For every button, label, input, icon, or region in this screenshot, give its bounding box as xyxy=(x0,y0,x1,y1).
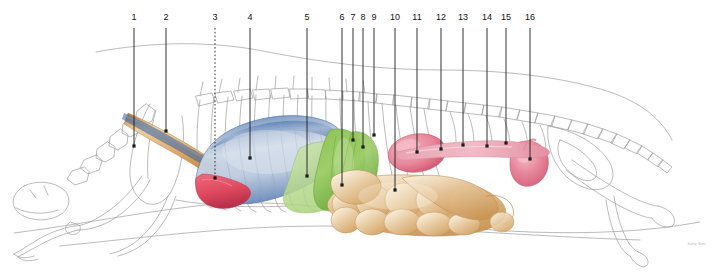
bladder-organ xyxy=(490,212,514,232)
label-number-15: 15 xyxy=(501,12,511,22)
leader-tip-12 xyxy=(439,147,442,150)
leader-tip-9 xyxy=(372,133,375,136)
leader-tip-10 xyxy=(393,188,396,191)
label-number-8: 8 xyxy=(360,12,365,22)
label-number-7: 7 xyxy=(350,12,355,22)
anatomy-figure: 12345678910111213141516 Kathy West xyxy=(0,0,727,274)
label-number-12: 12 xyxy=(436,12,446,22)
label-number-6: 6 xyxy=(339,12,344,22)
leader-tip-6 xyxy=(340,183,343,186)
leader-tip-14 xyxy=(485,144,488,147)
leader-tip-7 xyxy=(351,138,354,141)
intestines-organ xyxy=(327,170,513,236)
label-number-9: 9 xyxy=(371,12,376,22)
label-number-11: 11 xyxy=(412,12,421,22)
artist-signature: Kathy West xyxy=(688,242,706,246)
leader-tip-3 xyxy=(213,176,216,179)
label-number-4: 4 xyxy=(247,12,252,22)
leader-tip-4 xyxy=(248,156,251,159)
label-number-14: 14 xyxy=(482,12,492,22)
label-number-2: 2 xyxy=(163,12,168,22)
leader-tip-1 xyxy=(132,144,135,147)
label-number-5: 5 xyxy=(304,12,309,22)
label-number-10: 10 xyxy=(390,12,400,22)
leader-tip-8 xyxy=(361,145,364,148)
leader-tip-5 xyxy=(305,174,308,177)
label-number-16: 16 xyxy=(525,12,535,22)
anatomy-illustration xyxy=(0,0,727,274)
label-number-3: 3 xyxy=(212,12,217,22)
leader-tip-11 xyxy=(415,150,418,153)
label-number-1: 1 xyxy=(131,12,136,22)
leader-tip-16 xyxy=(528,157,531,160)
label-number-13: 13 xyxy=(458,12,468,22)
leader-tip-2 xyxy=(164,129,167,132)
leader-tip-15 xyxy=(504,141,507,144)
leader-tip-13 xyxy=(461,143,464,146)
